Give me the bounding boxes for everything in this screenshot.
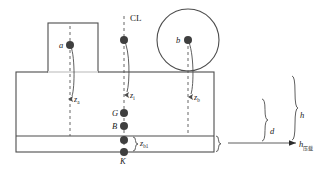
label-point-b: b	[176, 35, 180, 45]
marker-point-mid	[120, 136, 128, 144]
label-point-a: a	[59, 40, 63, 50]
label-tank-height-sub: b1	[143, 143, 149, 149]
marker-point-B	[120, 122, 128, 130]
marker-point-G	[120, 109, 128, 117]
marker-point-K	[120, 148, 128, 156]
label-point-B: B	[112, 121, 117, 131]
label-depth-zb-sub: b	[197, 97, 200, 103]
label-dimension-h: h	[300, 110, 304, 120]
marker-point-a	[66, 41, 74, 49]
marker-point-centerline-top	[120, 36, 128, 44]
ship-section-diagram: CL a b G B K za zi zb zb1 d h h压载	[0, 0, 330, 176]
label-centerline: CL	[130, 13, 142, 23]
marker-point-b	[184, 36, 192, 44]
diagram-background	[0, 0, 330, 176]
label-point-G: G	[112, 108, 118, 118]
label-ballast-height-sub: 压载	[303, 145, 313, 152]
diagram-canvas: CL a b G B K za zi zb zb1 d h h压载	[0, 0, 330, 176]
